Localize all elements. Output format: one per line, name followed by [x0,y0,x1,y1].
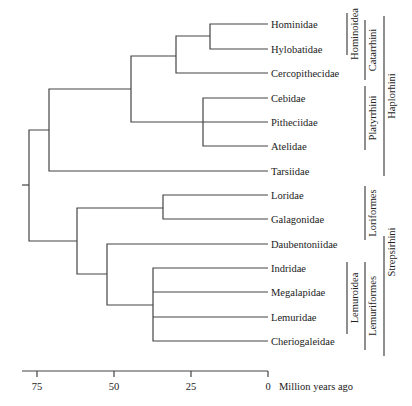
clade-brackets: Hominoidea Catarrhini Platyrrhini Haplor… [347,8,397,356]
phylogenetic-tree: Hominidae Hylobatidae Cercopithecidae Ce… [0,0,412,406]
leaf-atelidae: Atelidae [271,141,307,152]
leaf-cercopithecidae: Cercopithecidae [271,68,340,79]
clade-platyrrhini: Platyrrhini [367,95,378,140]
leaf-tarsiidae: Tarsiidae [271,166,310,177]
tick-25: 25 [186,381,197,392]
leaf-pitheciidae: Pitheciidae [271,117,318,128]
leaf-lemuridae: Lemuridae [271,312,317,323]
clade-strepsirhini: Strepsirhini [386,227,397,276]
leaf-cebidae: Cebidae [271,93,306,104]
tick-75: 75 [32,381,43,392]
axis-title: Million years ago [279,381,353,392]
tick-0: 0 [265,381,270,392]
time-axis: 75 50 25 0 Million years ago [22,371,353,392]
leaf-loridae: Loridae [271,190,304,201]
clade-hominoidea: Hominoidea [349,8,360,60]
tree-branches [22,24,268,341]
leaf-galagonidae: Galagonidae [271,214,324,225]
clade-loriformes: Loriformes [367,189,378,236]
clade-catarrhini: Catarrhini [367,29,378,72]
tick-50: 50 [109,381,120,392]
leaf-megalapidae: Megalapidae [271,287,326,298]
leaf-hominidae: Hominidae [271,19,318,30]
leaf-hylobatidae: Hylobatidae [271,44,323,55]
clade-lemuriformes: Lemuriformes [367,276,378,336]
leaf-cheriogaleidae: Cheriogaleidae [271,336,335,347]
leaf-daubentoniidae: Daubentoniidae [271,239,338,250]
leaf-labels: Hominidae Hylobatidae Cercopithecidae Ce… [271,19,340,347]
clade-lemuroidea: Lemuroidea [349,272,360,323]
leaf-indridae: Indridae [271,263,306,274]
clade-haplorhini: Haplorhini [386,73,397,119]
